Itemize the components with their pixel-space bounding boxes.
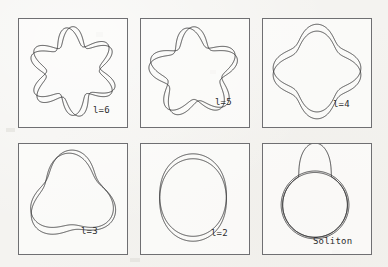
figure-canvas: l=6l=5l=4l=3l=2Soliton bbox=[0, 0, 388, 267]
panel-l2-plot bbox=[141, 144, 249, 254]
panel-l3-plot bbox=[19, 144, 127, 254]
panel-soliton: Soliton bbox=[262, 143, 372, 255]
panel-grid: l=6l=5l=4l=3l=2Soliton bbox=[0, 0, 388, 267]
panel-l6-plot bbox=[19, 19, 127, 127]
panel-soliton-circle-b bbox=[281, 171, 349, 239]
panel-l5: l=5 bbox=[140, 18, 250, 128]
panel-l2-curve-a bbox=[160, 154, 227, 236]
panel-l2: l=2 bbox=[140, 143, 250, 255]
panel-l3: l=3 bbox=[18, 143, 128, 255]
panel-soliton-bump bbox=[283, 144, 348, 237]
panel-l4-label: l=4 bbox=[333, 99, 350, 109]
panel-l3-label: l=3 bbox=[81, 226, 98, 236]
panel-l4-plot bbox=[263, 19, 371, 127]
panel-l4: l=4 bbox=[262, 18, 372, 128]
panel-l5-plot bbox=[141, 19, 249, 127]
panel-l6-label: l=6 bbox=[93, 105, 110, 115]
panel-l5-label: l=5 bbox=[215, 97, 232, 107]
panel-l2-label: l=2 bbox=[211, 228, 228, 238]
panel-l6: l=6 bbox=[18, 18, 128, 128]
panel-l6-curve-b bbox=[31, 28, 115, 116]
panel-soliton-label: Soliton bbox=[313, 236, 352, 246]
panel-l3-curve-b bbox=[31, 153, 115, 234]
